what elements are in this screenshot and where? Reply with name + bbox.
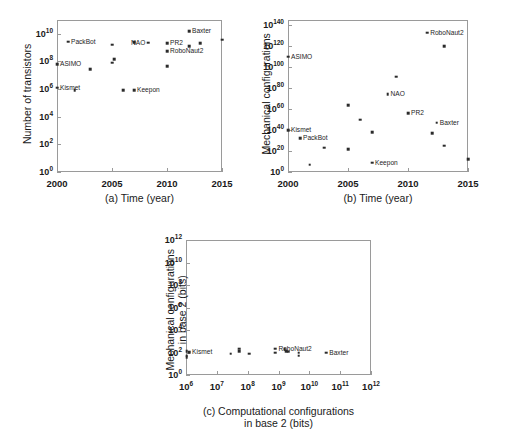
data-point: [89, 68, 92, 71]
data-point: [371, 161, 374, 164]
data-point: [426, 31, 429, 34]
panel-b-xtick-mark: [408, 168, 409, 172]
panel-a-ytick-label: 108: [21, 57, 53, 66]
panel-a-ytick-mark: [57, 172, 61, 173]
data-point: [122, 89, 125, 92]
data-point: [221, 38, 224, 41]
panel-b-xtick-mark: [288, 168, 289, 172]
panel-b-ytick-mark: [288, 151, 292, 152]
data-point: [386, 93, 389, 96]
panel-b-xtick-mark: [348, 168, 349, 172]
panel-c-ytick-mark: [186, 330, 190, 331]
panel-a-xtick-mark: [167, 168, 168, 172]
panel-c-ytick-mark: [186, 285, 190, 286]
panel-c-x-axis-title-line1: (c) Computational configurations: [203, 405, 354, 417]
data-point-label: Keepon: [137, 87, 160, 94]
data-point: [467, 158, 470, 161]
data-point: [229, 352, 232, 355]
data-point-label: Baxter: [192, 28, 211, 35]
panel-b-ytick-label: 100: [252, 168, 284, 177]
panel-c-xtick-mark: [340, 371, 341, 375]
panel-b-xtick-label: 2015: [457, 179, 478, 189]
panel-c-xtick-label: 106: [179, 382, 193, 392]
panel-a-xtick-label: 2010: [156, 179, 177, 189]
panel-c-ytick-label: 106: [150, 303, 182, 312]
figure-root: Number of transistors (a) Time (year) 10…: [0, 0, 505, 444]
panel-b-xtick-label: 2010: [397, 179, 418, 189]
panel-c-ytick-mark: [186, 263, 190, 264]
data-point: [248, 352, 251, 355]
panel-c-xtick-mark: [279, 371, 280, 375]
data-point: [325, 351, 328, 354]
panel-a-xtick-mark: [57, 168, 58, 172]
panel-c-xtick-mark: [217, 371, 218, 375]
panel-b: Mechanical configurations (b) Time (year…: [255, 0, 505, 215]
data-point: [287, 350, 290, 353]
data-point: [238, 350, 241, 353]
panel-b-plot-area: [288, 20, 468, 172]
data-point-label: NAO: [391, 91, 405, 98]
data-point-label: Baxter: [440, 119, 459, 126]
data-point: [308, 163, 311, 166]
panel-c-ytick-label: 100: [150, 371, 182, 380]
data-point-label: Kismet: [60, 84, 80, 91]
data-point: [188, 45, 191, 48]
data-point: [147, 42, 150, 45]
panel-c-ytick-label: 108: [150, 281, 182, 290]
data-point-label: RoboNaut2: [430, 29, 463, 36]
data-point: [188, 30, 191, 33]
data-point: [443, 45, 446, 48]
data-point: [371, 131, 374, 134]
panel-a-ytick-label: 106: [21, 85, 53, 94]
panel-c-ytick-mark: [186, 240, 190, 241]
panel-b-ytick-mark: [288, 172, 292, 173]
panel-c-ytick-mark: [186, 375, 190, 376]
panel-b-xtick-label: 2000: [277, 179, 298, 189]
panel-c-xtick-mark: [248, 371, 249, 375]
data-point: [407, 112, 410, 115]
panel-c-xtick-mark: [371, 371, 372, 375]
data-point: [166, 42, 169, 45]
panel-a-ytick-label: 1010: [21, 29, 53, 38]
data-point: [274, 347, 277, 350]
data-point-label: PackBot: [303, 135, 328, 142]
data-point: [67, 41, 70, 44]
data-point-label: PR2: [411, 110, 424, 117]
data-point: [443, 144, 446, 147]
panel-b-x-axis-title: (b) Time (year): [288, 192, 468, 204]
panel-a-ytick-label: 102: [21, 140, 53, 149]
panel-a-ytick-mark: [57, 144, 61, 145]
panel-b-ytick-label: 1040: [252, 126, 284, 135]
data-point: [347, 104, 350, 107]
panel-c-xtick-mark: [186, 371, 187, 375]
data-point: [56, 63, 59, 66]
data-point: [287, 129, 290, 132]
panel-c-ytick-label: 102: [150, 348, 182, 357]
panel-c-xtick-label: 1012: [362, 382, 380, 392]
panel-a-ytick-label: 100: [21, 168, 53, 177]
data-point: [359, 118, 362, 121]
panel-b-ytick-label: 10120: [252, 42, 284, 51]
data-point: [111, 44, 114, 47]
panel-c-xtick-label: 1011: [331, 382, 348, 392]
panel-b-ytick-label: 10140: [252, 21, 284, 30]
panel-b-ytick-mark: [288, 67, 292, 68]
panel-b-ytick-mark: [288, 46, 292, 47]
panel-c-ytick-label: 1012: [150, 236, 182, 245]
data-point: [166, 50, 169, 53]
panel-b-ytick-label: 1060: [252, 105, 284, 114]
data-point: [297, 354, 300, 357]
data-point-label: Kismet: [192, 349, 212, 356]
data-point-label: PR2: [170, 40, 183, 47]
panel-c-xtick-label: 1010: [300, 382, 318, 392]
data-point: [166, 65, 169, 68]
panel-a-xtick-mark: [112, 168, 113, 172]
data-point-label: Keepon: [375, 159, 398, 166]
panel-c-xtick-label: 107: [210, 382, 224, 392]
data-point: [188, 351, 191, 354]
data-point-label: Baxter: [329, 349, 348, 356]
panel-a-xtick-label: 2015: [211, 179, 232, 189]
data-point-label: NAO: [131, 40, 145, 47]
panel-a-xtick-label: 2000: [46, 179, 67, 189]
panel-a-ytick-mark: [57, 117, 61, 118]
